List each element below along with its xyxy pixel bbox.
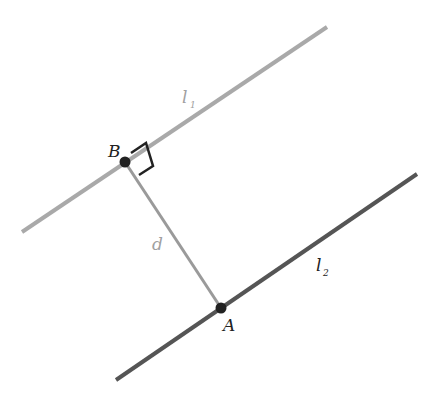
point-b <box>120 157 131 168</box>
distance-segment-d <box>125 162 221 308</box>
label-line-l1: l <box>182 87 187 107</box>
label-point-b: B <box>107 141 121 161</box>
label-point-a: A <box>221 315 235 335</box>
parallel-lines-figure: B A d l 1 l 2 <box>0 0 448 399</box>
line-l2 <box>116 174 417 380</box>
diagram-canvas: B A d l 1 l 2 <box>0 0 448 399</box>
label-line-l1-subscript: 1 <box>190 100 196 110</box>
point-a <box>216 303 227 314</box>
label-line-l2-subscript: 2 <box>322 268 329 278</box>
label-line-l2: l <box>316 255 321 275</box>
line-l1 <box>22 27 327 232</box>
label-distance-d: d <box>152 234 163 254</box>
